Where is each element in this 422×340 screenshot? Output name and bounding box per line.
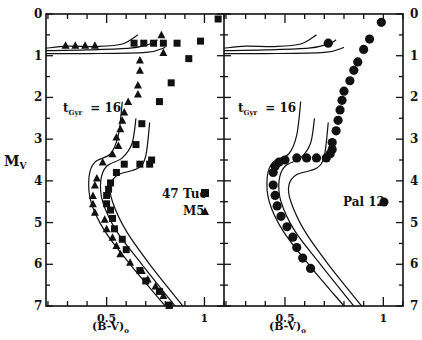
triangle-marker-icon — [93, 174, 101, 182]
x-axis-label-left: (B-V)o — [92, 320, 129, 335]
legend-label-m5: M5 — [183, 204, 205, 218]
square-marker-icon — [136, 161, 143, 168]
triangle-marker-icon — [89, 191, 97, 199]
legend-label-pal12: Pal 12 — [343, 195, 385, 209]
y-tick-label-left: 0 — [34, 7, 42, 21]
triangle-marker-icon — [157, 31, 165, 39]
square-marker-icon — [185, 55, 192, 62]
square-marker-icon — [107, 179, 114, 186]
circle-marker-icon — [380, 198, 389, 207]
triangle-marker-icon — [136, 56, 144, 64]
circle-marker-icon — [269, 168, 278, 177]
circle-marker-icon — [365, 34, 374, 43]
y-tick-label-right: 2 — [410, 90, 418, 104]
circle-marker-icon — [292, 243, 301, 252]
square-marker-icon — [113, 169, 120, 176]
y-tick-label-right: 6 — [410, 257, 418, 271]
isochrone-curve — [224, 35, 316, 48]
circle-marker-icon — [276, 212, 285, 221]
age-annotation-right: tGyr= 16 — [238, 101, 296, 117]
square-marker-icon — [140, 40, 147, 47]
square-marker-icon — [150, 40, 157, 47]
y-tick-label-right: 7 — [410, 299, 418, 313]
circle-marker-icon — [302, 153, 311, 162]
square-marker-icon — [131, 40, 138, 47]
circle-marker-icon — [333, 116, 342, 125]
isochrone-curve — [89, 102, 166, 306]
isochrone-curve — [279, 118, 354, 306]
square-marker-icon — [105, 186, 112, 193]
circle-marker-icon — [288, 233, 297, 242]
triangle-marker-icon — [101, 215, 109, 223]
age-annotation-left: tGyr= 16 — [63, 101, 121, 117]
circle-marker-icon — [337, 96, 346, 105]
y-axis-label: MV — [4, 153, 28, 171]
triangle-marker-icon — [91, 181, 99, 189]
y-tick-label-left: 6 — [34, 257, 42, 271]
circle-marker-icon — [322, 153, 331, 162]
square-marker-icon — [148, 157, 155, 164]
triangle-marker-icon — [109, 150, 117, 158]
square-marker-icon — [156, 98, 163, 105]
triangle-marker-icon — [124, 98, 132, 106]
circle-marker-icon — [324, 39, 333, 48]
triangle-marker-icon — [62, 41, 70, 49]
y-tick-label-right: 4 — [410, 174, 418, 188]
circle-marker-icon — [306, 264, 315, 273]
square-marker-icon — [197, 38, 204, 45]
square-marker-icon — [138, 120, 145, 127]
circle-marker-icon — [377, 18, 386, 27]
circle-marker-icon — [292, 153, 301, 162]
square-marker-icon — [123, 246, 130, 253]
circle-marker-icon — [271, 191, 280, 200]
square-marker-icon — [160, 40, 167, 47]
square-marker-icon — [119, 236, 126, 243]
triangle-marker-icon — [134, 81, 142, 89]
circle-marker-icon — [273, 201, 282, 210]
triangle-marker-icon — [89, 200, 97, 208]
x-axis-label-right: (B-V)o — [269, 320, 306, 335]
x-tick-label: 1 — [380, 312, 388, 325]
legend-m5: M5 — [183, 204, 209, 218]
y-tick-label-right: 5 — [410, 216, 418, 230]
square-marker-icon — [103, 200, 110, 207]
y-tick-label-left: 5 — [34, 216, 42, 230]
triangle-marker-icon — [81, 41, 89, 49]
legend-47tuc: 47 Tuc — [162, 187, 209, 201]
square-marker-icon — [201, 189, 209, 197]
isochrone-curve — [224, 40, 336, 51]
x-tick-label: 1 — [201, 312, 209, 325]
triangle-marker-icon — [134, 90, 142, 98]
triangle-marker-icon — [112, 133, 120, 141]
circle-marker-icon — [339, 87, 348, 96]
square-marker-icon — [107, 207, 114, 214]
legend-pal12: Pal 12 — [343, 195, 389, 209]
circle-marker-icon — [298, 253, 307, 262]
isochrone-curve — [288, 122, 361, 306]
isochrone-curve — [46, 35, 138, 48]
square-marker-icon — [103, 192, 110, 199]
square-marker-icon — [132, 141, 139, 148]
circle-marker-icon — [349, 66, 358, 75]
square-marker-icon — [111, 225, 118, 232]
circle-marker-icon — [335, 105, 344, 114]
circle-marker-icon — [282, 222, 291, 231]
triangle-marker-icon — [109, 233, 117, 241]
legend-label-47tuc: 47 Tuc — [162, 187, 207, 201]
y-tick-label-left: 2 — [34, 90, 42, 104]
y-tick-label-left: 4 — [34, 174, 42, 188]
triangle-marker-icon — [71, 41, 79, 49]
triangle-marker-icon — [91, 41, 99, 49]
circle-marker-icon — [345, 76, 354, 85]
triangle-marker-icon — [126, 258, 134, 266]
circle-marker-icon — [359, 45, 368, 54]
cmd-chart: 00112233445566770.510.51 MV (B-V)o (B-V)… — [0, 0, 422, 340]
y-tick-label-right: 3 — [410, 132, 418, 146]
square-marker-icon — [121, 161, 128, 168]
y-tick-label-left: 1 — [34, 49, 42, 63]
triangle-marker-icon — [118, 116, 126, 124]
square-marker-icon — [109, 215, 116, 222]
circle-marker-icon — [332, 126, 341, 135]
isochrone-curves — [46, 35, 362, 306]
triangle-marker-icon — [116, 125, 124, 132]
